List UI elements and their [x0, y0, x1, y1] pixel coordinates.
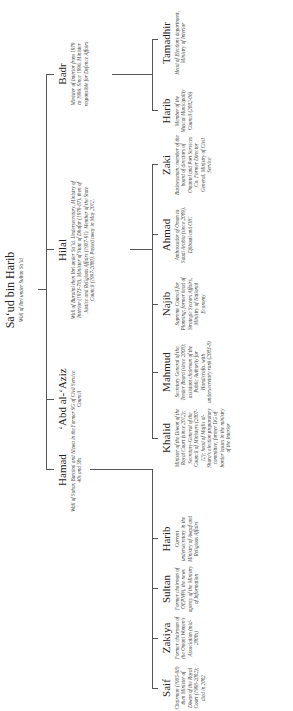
grandchild-desc: Member of the Muscat Municipality Counci…	[174, 89, 193, 133]
connector	[152, 164, 153, 439]
grandchild-node-harib-bin-badr: Harib Member of the Muscat Municipality …	[160, 89, 193, 133]
root-desc: Wali of Ibri under Sultan Sa‘id	[18, 220, 24, 360]
grandchild-node-harib: Harib Current undersecretary in the Mini…	[160, 515, 200, 563]
connector	[152, 39, 158, 40]
connector	[38, 289, 46, 290]
child-node-hilal: Hilal Wali of Buraimi then Ibri under Sa…	[56, 180, 96, 320]
connector	[152, 438, 158, 439]
grandchild-desc: Former chairman of OEPNPA, the news agen…	[174, 565, 200, 613]
grandchild-name: Zakiya	[160, 615, 172, 661]
connector	[46, 74, 47, 470]
grandchild-node-zaki: Zaki Businessman; member of the board of…	[160, 135, 212, 195]
child-node-abd-al-aziz: ‘Abd al-‘Aziz Former SG of Civil Service…	[56, 363, 83, 435]
child-name: Hilal	[56, 180, 68, 320]
child-node-badr: Badr Minister of Interior from 1979 to 1…	[56, 41, 89, 107]
connector	[46, 469, 54, 470]
grandchild-name: Ahmad	[160, 205, 172, 265]
grandchild-node-khalid: Khalid Minister of the Diwan of the Roya…	[160, 407, 232, 469]
child-node-hamad: Hamad Wali of Sohar, Buraimi and Nizwa i…	[56, 425, 83, 515]
connector	[152, 469, 153, 689]
grandchild-desc: Businessman; member of the board of dire…	[174, 135, 212, 195]
child-desc: Minister of Interior from 1979 to 1996. …	[70, 41, 89, 107]
grandchild-name: Zaki	[160, 135, 172, 195]
grandchild-node-najib: Najib Supreme Council for Planning; form…	[160, 273, 206, 335]
grandchild-desc: Supreme Council for Planning; former hea…	[174, 273, 206, 335]
grandchild-name: Saif	[160, 665, 172, 711]
connector	[46, 249, 54, 250]
child-name: Badr	[56, 41, 68, 107]
child-desc: Former SG of Civil Service Council	[70, 363, 83, 435]
connector	[152, 372, 158, 373]
child-name: ‘Abd al-‘Aziz	[56, 363, 68, 435]
grandchild-node-mahmud: Mahmud Secretary General of the Tender B…	[160, 341, 212, 403]
grandchild-node-zakiya: Zakiya Former chairman of the Omani Wome…	[160, 615, 200, 661]
grandchild-node-sultan: Sultan Former chairman of OEPNPA, the ne…	[160, 565, 200, 613]
connector	[152, 110, 158, 111]
grandchild-name: Sultan	[160, 565, 172, 613]
grandchild-node-ahmad: Ahmad Ambassador of Oman to Saudi Arabia…	[160, 205, 193, 265]
grandchild-name: Harib	[160, 515, 172, 563]
connector	[152, 39, 153, 111]
connector	[152, 164, 158, 165]
grandchild-name: Najib	[160, 273, 172, 335]
child-desc: Wali of Buraimi then Ibri under Sa‘id. U…	[70, 180, 96, 320]
grandchild-desc: Secretary General of the Tender Board (s…	[174, 341, 212, 403]
grandchild-desc: Current undersecretary in the Ministry o…	[174, 515, 200, 563]
grandchild-node-saif: Saif Chairman (1985-98) then Minister of…	[160, 665, 206, 711]
child-desc: Wali of Sohar, Buraimi and Nizwa in the …	[70, 425, 83, 515]
grandchild-name: Tamadhir	[160, 7, 172, 79]
connector	[152, 304, 158, 305]
connector	[152, 638, 158, 639]
grandchild-name: Khalid	[160, 407, 172, 469]
connector	[130, 249, 152, 250]
grandchild-name: Harib	[160, 89, 172, 133]
grandchild-desc: Head of Elections department, Ministry o…	[174, 7, 187, 79]
connector	[152, 588, 158, 589]
grandchild-desc: Chairman (1985-98) then Minister of Diwa…	[174, 665, 206, 711]
grandchild-desc: Ambassador of Oman to Saudi Arabia (sinc…	[174, 205, 193, 265]
root-name: Sa‘ud bin Harib	[4, 220, 16, 360]
grandchild-desc: Minister of the Diwan of the Royal Court…	[174, 407, 232, 469]
connector	[112, 74, 152, 75]
connector	[152, 538, 158, 539]
connector	[90, 469, 152, 470]
grandchild-name: Mahmud	[160, 341, 172, 403]
root-node: Sa‘ud bin Harib Wali of Ibri under Sulta…	[4, 220, 24, 360]
connector	[152, 688, 158, 689]
connector	[152, 234, 158, 235]
connector	[46, 74, 54, 75]
child-name: Hamad	[56, 425, 68, 515]
connector	[46, 399, 54, 400]
grandchild-desc: Former chairman of the Omani Women's Ass…	[174, 615, 200, 661]
grandchild-node-tamadhir: Tamadhir Head of Elections department, M…	[160, 7, 187, 79]
